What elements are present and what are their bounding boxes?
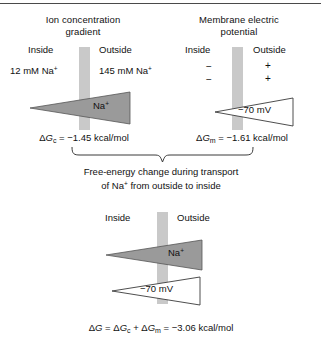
concentration-free-energy-formula: ΔGc = −1.45 kcal/mol [14,132,154,144]
brace-caption: Free-energy change during transport of N… [28,166,294,192]
concentration-title-line1: Ion concentration [46,14,121,25]
inside-concentration-superscript: + [54,65,58,72]
plus-sign-total: + [131,322,142,333]
combined-na-flux-arrow [106,238,202,272]
combined-na-label-text: Na [168,247,180,258]
potential-free-energy-formula: ΔGm = −1.61 kcal/mol [172,132,312,144]
top-divider-rule [0,3,321,4]
summing-brace [70,146,255,164]
g-symbol-m: G [202,132,209,143]
caption-line1: Free-energy change during transport [84,166,239,177]
caption-line2: of Na+ from outside to inside [101,180,220,191]
concentration-outside-label: Outside [99,44,132,55]
equals-sign-total: = [102,322,113,333]
potential-arrow-label: −70 mV [238,104,271,115]
inside-charge-1: − [203,61,215,72]
potential-panel-title: Membrane electric potential [172,14,306,37]
caption-line2-pre: of Na [101,180,124,191]
curly-brace-icon [70,146,255,164]
potential-outside-label: Outside [253,44,286,55]
concentration-triangle-icon [30,90,130,126]
inside-concentration-text: 12 mM Na [10,65,54,76]
g-symbol-c: G [46,132,53,143]
combined-na-arrow-label: Na+ [168,247,184,258]
inside-concentration-value: 12 mM Na+ [10,65,58,76]
potential-title-line2: potential [221,26,258,37]
concentration-panel-title: Ion concentration gradient [18,14,148,37]
combined-na-triangle-icon [106,238,202,272]
combined-free-energy-formula: ΔG = ΔGc + ΔGm = −3.06 kcal/mol [50,322,272,334]
potential-inside-label: Inside [185,44,210,55]
combined-formula-value: = −3.06 kcal/mol [161,322,233,333]
figure-root: Ion concentration gradient Inside Outsid… [0,0,321,350]
g-symbol-total-m: G [148,322,155,333]
combined-na-label-superscript: + [180,247,184,254]
potential-title-line1: Membrane electric [199,14,279,25]
g-symbol-total-c: G [120,322,127,333]
inside-charge-2: − [203,74,215,85]
outside-charge-1: + [262,60,274,71]
concentration-title-line2: gradient [65,26,100,37]
combined-outside-label: Outside [177,212,210,223]
concentration-flux-arrow [30,90,130,126]
concentration-arrow-label-superscript: + [105,100,109,107]
outside-concentration-superscript: + [148,65,152,72]
combined-inside-label: Inside [105,212,130,223]
concentration-arrow-label-text: Na [93,100,105,111]
concentration-arrow-label: Na+ [93,100,109,111]
combined-mv-arrow-label: −70 mV [140,283,173,294]
outside-charge-2: + [262,73,274,84]
concentration-formula-value: = −1.45 kcal/mol [56,132,128,143]
caption-line2-post: from outside to inside [128,180,221,191]
outside-concentration-text: 145 mM Na [99,65,148,76]
potential-formula-value: = −1.61 kcal/mol [216,132,288,143]
concentration-inside-label: Inside [28,44,53,55]
outside-concentration-value: 145 mM Na+ [99,65,152,76]
